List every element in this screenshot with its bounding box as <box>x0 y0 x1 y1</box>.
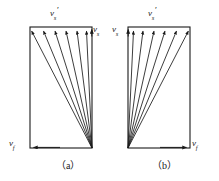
panel-b-side-label-sub: s <box>116 30 119 37</box>
panel-b-top-label-sub: s <box>152 14 155 21</box>
panel-a-top-label-prime: ′ <box>57 5 59 15</box>
panel-a <box>30 27 92 148</box>
panel-b <box>128 27 190 148</box>
vector-fan-diagram <box>0 0 219 181</box>
panel-a-vector-fan <box>32 31 92 148</box>
panel-b-bottom-label-sub: f <box>196 144 198 151</box>
panel-a-top-label: vs′ <box>50 9 59 20</box>
panel-b-vector-6 <box>128 31 134 148</box>
panel-a-vector-1 <box>32 31 92 148</box>
panel-a-caption: （a） <box>56 161 80 171</box>
panel-b-top-label: vs′ <box>148 9 157 20</box>
panel-a-side-label-sub: s <box>97 30 100 37</box>
panel-b-vector-fan <box>128 31 188 148</box>
panel-b-bottom-label: vf <box>192 139 198 150</box>
panel-a-bottom-label-sub: f <box>13 144 15 151</box>
panel-b-side-label: vs <box>112 25 119 36</box>
panel-a-vector-3 <box>55 31 92 148</box>
panel-b-vector-1 <box>128 31 188 148</box>
panel-a-vector-6 <box>87 31 93 148</box>
panel-a-top-label-sub: s <box>54 14 57 21</box>
figure-container: vs′ vs vf vs′ vs vf （a） （b） <box>0 0 219 181</box>
panel-a-bottom-label: vf <box>9 139 15 150</box>
panel-b-caption: （b） <box>152 161 177 171</box>
panel-b-vector-3 <box>128 31 165 148</box>
panel-b-top-label-prime: ′ <box>155 5 157 15</box>
panel-a-side-label: vs <box>93 25 100 36</box>
